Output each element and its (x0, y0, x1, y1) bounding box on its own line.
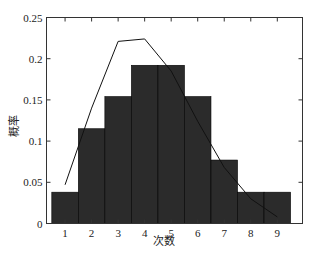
histogram-bars (52, 65, 291, 223)
histogram-bar (264, 192, 291, 223)
y-tick-label: 0 (37, 218, 43, 230)
histogram-chart: 00.050.10.150.20.25 123456789 次数 概率 (0, 0, 315, 257)
histogram-bar (184, 97, 211, 224)
x-tick-label: 3 (115, 227, 121, 239)
x-tick-label: 8 (248, 227, 254, 239)
y-tick-label: 0.15 (23, 94, 43, 106)
x-axis-label: 次数 (153, 234, 175, 247)
histogram-bar (211, 160, 238, 223)
y-tick-label: 0.25 (23, 12, 43, 24)
histogram-bar (78, 129, 105, 224)
histogram-bar (52, 192, 79, 223)
x-tick-label: 4 (142, 227, 148, 239)
x-tick-label: 7 (221, 227, 227, 239)
histogram-bar (105, 97, 132, 224)
y-axis-label: 概率 (7, 115, 20, 137)
y-tick-label: 0.2 (29, 53, 43, 65)
x-tick-label: 9 (275, 227, 281, 239)
x-tick-label: 2 (89, 227, 95, 239)
y-tick-label: 0.1 (29, 135, 43, 147)
y-tick-label: 0.05 (23, 176, 43, 188)
histogram-bar (238, 192, 265, 223)
x-tick-label: 6 (195, 227, 201, 239)
histogram-bar (131, 65, 158, 223)
x-tick-label: 1 (62, 227, 68, 239)
